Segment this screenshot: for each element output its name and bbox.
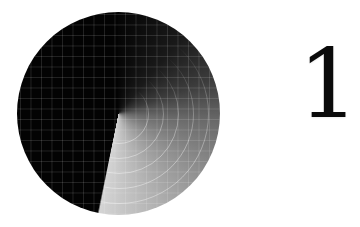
dial-concentric-rings xyxy=(17,12,220,215)
dial-ring xyxy=(29,24,209,204)
countdown-digit: 1 xyxy=(298,36,354,132)
countdown-sweep-dial xyxy=(17,12,220,215)
countdown-stage: 1 xyxy=(0,0,360,227)
